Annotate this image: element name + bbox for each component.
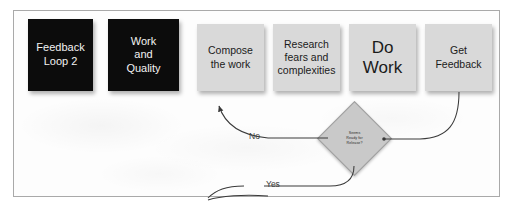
node-feedback-loop-2-label: Feedback Loop 2 (33, 41, 87, 68)
connector-label-yes: Yes (266, 179, 280, 189)
node-get-feedback-label: Get Feedback (432, 44, 484, 70)
node-research-fears-and-complexities[interactable]: Research fears and complexities (273, 24, 340, 91)
node-work-and-quality[interactable]: Work and Quality (108, 19, 179, 91)
node-do-work-label: Do Work (360, 38, 405, 77)
node-feedback-loop-2[interactable]: Feedback Loop 2 (28, 19, 93, 91)
connector-label-no: No (249, 131, 260, 141)
node-compose-the-work-label: Compose the work (205, 44, 256, 70)
decision-seems-ready-for-release[interactable]: Seems Ready for Release? (328, 112, 381, 165)
node-work-and-quality-label: Work and Quality (123, 35, 163, 76)
node-research-fears-and-complexities-label: Research fears and complexities (275, 38, 339, 77)
node-compose-the-work[interactable]: Compose the work (197, 24, 264, 91)
node-get-feedback[interactable]: Get Feedback (425, 24, 492, 91)
node-do-work[interactable]: Do Work (349, 24, 416, 91)
slide-frame: Feedback Loop 2 Work and Quality Compose… (13, 10, 500, 197)
decision-label: Seems Ready for Release? (328, 112, 381, 165)
